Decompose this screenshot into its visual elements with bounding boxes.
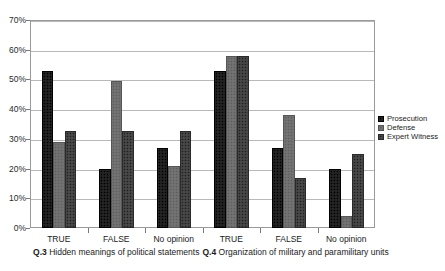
bar [168, 166, 180, 228]
bar [329, 169, 341, 228]
x-axis-tick-mark [203, 228, 204, 233]
x-axis-category-label: FALSE [88, 234, 146, 244]
group-caption-text: Hidden meanings of political statements [47, 247, 200, 257]
bar [111, 81, 123, 228]
group-caption: Q.4 Organization of military and paramil… [203, 247, 376, 257]
x-axis-category-label: FALSE [260, 234, 318, 244]
bar [157, 148, 169, 228]
x-axis-category-label: TRUE [203, 234, 261, 244]
legend-item-label: Defense [387, 123, 415, 132]
y-axis: 0%10%20%30%40%50%60%70% [0, 0, 30, 271]
chart-legend: ProsecutionDefenseExpert Witness [378, 114, 438, 141]
group-caption-prefix: Q.3 [33, 247, 47, 257]
y-axis-tick-label: 40% [0, 104, 26, 114]
y-axis-tick-mark [26, 228, 30, 229]
y-axis-tick-label: 10% [0, 193, 26, 203]
x-axis-category-label: TRUE [30, 234, 88, 244]
bar [53, 142, 65, 228]
bar [283, 115, 295, 228]
legend-item: Expert Witness [378, 132, 438, 141]
legend-swatch-icon [378, 116, 384, 122]
y-axis-tick-label: 60% [0, 45, 26, 55]
bar [42, 71, 54, 228]
x-axis-tick-mark [318, 228, 319, 233]
group-caption-prefix: Q.4 [203, 247, 217, 257]
x-axis-tick-mark [145, 228, 146, 233]
legend-item: Prosecution [378, 114, 438, 123]
y-axis-tick-label: 0% [0, 223, 26, 233]
bar [214, 71, 226, 228]
bar [352, 154, 364, 228]
bar [341, 216, 353, 228]
bar [180, 131, 192, 228]
x-axis-category-label: No opinion [145, 234, 203, 244]
bar [226, 56, 238, 228]
bar-chart: 0%10%20%30%40%50%60%70% TRUEFALSENo opin… [0, 0, 445, 271]
y-axis-tick-label: 20% [0, 164, 26, 174]
y-axis-tick-label: 70% [0, 15, 26, 25]
group-caption-text: Organization of military and paramilitar… [216, 247, 388, 257]
y-axis-tick-label: 30% [0, 134, 26, 144]
x-axis-tick-mark [260, 228, 261, 233]
legend-item-label: Expert Witness [387, 132, 438, 141]
legend-item-label: Prosecution [387, 114, 427, 123]
bar [272, 148, 284, 228]
legend-item: Defense [378, 123, 438, 132]
bar [237, 56, 249, 228]
legend-swatch-icon [378, 134, 384, 140]
legend-swatch-icon [378, 125, 384, 131]
x-axis-category-label: No opinion [318, 234, 376, 244]
bar [295, 178, 307, 229]
bar [65, 131, 77, 228]
bars-layer [30, 20, 375, 228]
group-caption: Q.3 Hidden meanings of political stateme… [30, 247, 203, 257]
bar [122, 131, 134, 228]
y-axis-tick-label: 50% [0, 74, 26, 84]
x-axis-tick-mark [88, 228, 89, 233]
bar [99, 169, 111, 228]
